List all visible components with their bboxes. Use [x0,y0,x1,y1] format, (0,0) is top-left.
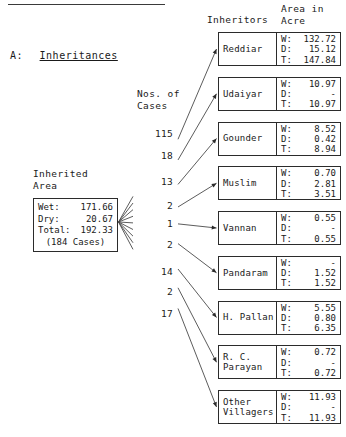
area-dry-label: D: [281,89,292,99]
area-dry-row: D:- [281,89,336,99]
area-wet-label: W: [281,347,292,357]
area-wet-row: W:- [281,258,336,268]
inheritor-name-cell: Udaiyar [219,78,277,110]
area-total-row: T:3.51 [281,189,336,199]
area-wet-value: 0.55 [314,213,336,223]
area-total-row: T:8.94 [281,144,336,154]
area-total-row: T:10.97 [281,99,336,109]
area-total-label: T: [281,144,292,154]
page-title: A: Inheritances [10,50,118,61]
source-total-row: Total: 192.33 [38,225,113,237]
area-total-value: 11.93 [309,413,336,423]
source-wet-row: Wet: 171.66 [38,202,113,214]
header-divider-rule [8,4,165,5]
source-dry-value: 20.67 [86,214,113,226]
area-wet-label: W: [281,79,292,89]
area-total-value: 147.84 [303,55,336,65]
case-count-label: 2 [139,239,173,250]
column-header-area: Area in Acre [281,3,324,26]
area-total-value: 3.51 [314,189,336,199]
area-total-value: 0.72 [314,368,336,378]
inheritor-name-cell: Muslim [219,167,277,199]
area-wet-row: W:10.97 [281,79,336,89]
source-wet-value: 171.66 [80,202,113,214]
section-label: A: [10,50,23,61]
area-total-label: T: [281,99,292,109]
area-total-row: T:0.55 [281,234,336,244]
area-dry-value: - [331,89,336,99]
inheritor-name-cell: Vannan [219,212,277,244]
source-caption-line1: Inherited [33,168,88,180]
inheritor-area-cell: W:10.97D:-T:10.97 [277,78,340,110]
area-dry-label: D: [281,402,292,412]
area-wet-value: 8.52 [314,124,336,134]
inheritor-name-cell: Reddiar [219,33,277,65]
case-count-label: 2 [139,200,173,211]
area-dry-label: D: [281,179,292,189]
area-total-value: 6.35 [314,323,336,333]
area-dry-label: D: [281,134,292,144]
area-wet-value: 10.97 [309,79,336,89]
area-wet-label: W: [281,124,292,134]
inheritor-row: GounderW:8.52D:0.42T:8.94 [218,122,341,156]
source-caption: Inherited Area [33,168,88,192]
area-dry-row: D:1.52 [281,268,336,278]
inheritor-row: R. C. ParayanW:0.72D:-T:0.72 [218,345,341,379]
area-total-label: T: [281,278,292,288]
inheritor-area-cell: W:5.55D:0.80T:6.35 [277,302,340,334]
column-header-area-line1: Area in [281,3,324,15]
area-total-label: T: [281,55,292,65]
area-dry-value: 0.80 [314,313,336,323]
case-count-label: 14 [139,266,173,277]
area-wet-value: 5.55 [314,303,336,313]
area-wet-row: W:0.70 [281,168,336,178]
inheritor-name-text: Vannan [223,223,257,234]
case-count-label: 115 [139,128,173,139]
case-count-label: 13 [139,176,173,187]
area-total-value: 10.97 [309,99,336,109]
area-wet-label: W: [281,303,292,313]
inheritor-area-cell: W:-D:1.52T:1.52 [277,257,340,289]
inheritor-row: H. PallanW:5.55D:0.80T:6.35 [218,301,341,335]
area-wet-label: W: [281,213,292,223]
inheritor-area-cell: W:0.55D:-T:0.55 [277,212,340,244]
inheritor-name-text: R. C. Parayan [223,352,262,373]
area-wet-row: W:0.55 [281,213,336,223]
area-wet-label: W: [281,34,292,44]
source-wet-label: Wet: [38,202,60,214]
inheritor-area-cell: W:0.70D:2.81T:3.51 [277,167,340,199]
nos-of-cases-label: Nos. of Cases [137,88,180,111]
area-dry-row: D:- [281,402,336,412]
area-dry-value: 1.52 [314,268,336,278]
inheritor-row: UdaiyarW:10.97D:-T:10.97 [218,77,341,111]
inheritor-name-text: Reddiar [223,44,262,55]
section-title-text: Inheritances [40,50,118,61]
area-wet-label: W: [281,258,292,268]
area-dry-row: D:- [281,358,336,368]
area-total-row: T:147.84 [281,55,336,65]
column-header-area-line2: Acre [281,15,324,27]
inheritor-name-text: Gounder [223,133,262,144]
case-count-label: 18 [139,150,173,161]
inheritor-name-cell: Gounder [219,123,277,155]
area-wet-label: W: [281,392,292,402]
area-dry-value: 15.12 [309,44,336,54]
area-wet-row: W:132.72 [281,34,336,44]
area-dry-row: D:0.42 [281,134,336,144]
source-total-label: Total: [38,225,71,237]
inheritor-row: Other VillagersW:11.93D:-T:11.93 [218,390,341,424]
area-dry-label: D: [281,223,292,233]
area-total-row: T:6.35 [281,323,336,333]
area-dry-row: D:0.80 [281,313,336,323]
inheritor-area-cell: W:8.52D:0.42T:8.94 [277,123,340,155]
inheritor-name-cell: Other Villagers [219,391,277,423]
case-count-label: 17 [139,308,173,319]
nos-of-cases-line2: Cases [137,100,180,112]
area-dry-label: D: [281,268,292,278]
area-total-row: T:0.72 [281,368,336,378]
area-dry-label: D: [281,44,292,54]
inheritor-name-text: H. Pallan [223,312,274,323]
inheritor-name-text: Other Villagers [223,397,274,418]
area-total-label: T: [281,368,292,378]
area-wet-value: 132.72 [303,34,336,44]
